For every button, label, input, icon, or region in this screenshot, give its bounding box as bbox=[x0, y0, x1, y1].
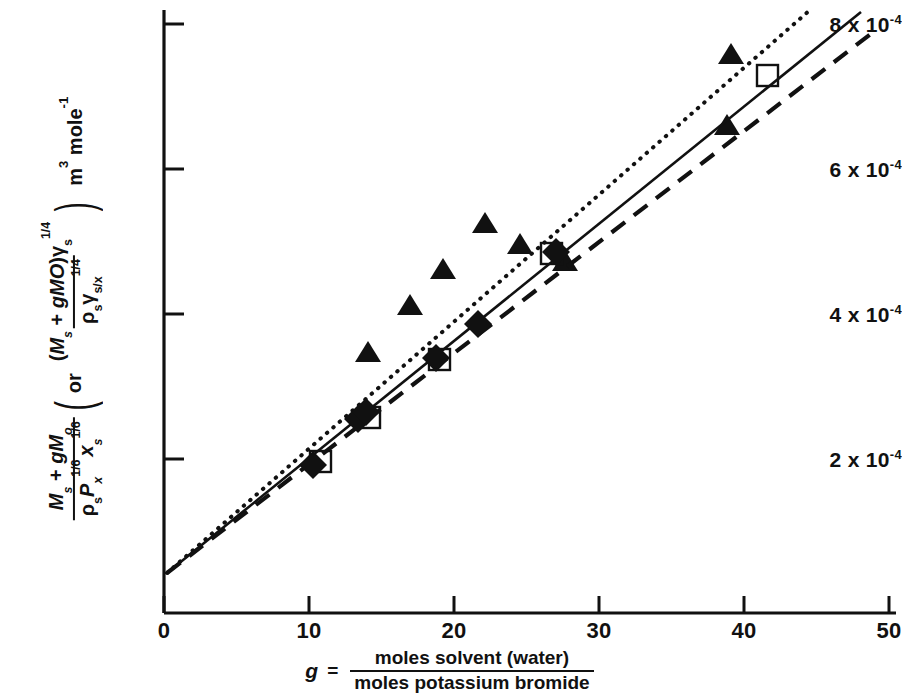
x-tick-label-30: 30 bbox=[586, 618, 611, 644]
triangle-markers bbox=[355, 43, 744, 362]
chart-plot bbox=[0, 0, 902, 699]
x-label-fraction: moles solvent (water) moles potassium br… bbox=[350, 648, 593, 693]
y-axis-units: m3 mole-1 bbox=[62, 97, 87, 186]
x-tick-label-10: 10 bbox=[296, 618, 321, 644]
y-axis-label-wrapper: Ms + gMo ρsPx1/6xs1/6 ( or (Ms + gMO)γs1… bbox=[14, 0, 134, 620]
x-label-symbol: g bbox=[305, 659, 318, 683]
fraction-2-denominator: ρsγs/x1/4 bbox=[73, 255, 102, 328]
or-word: or bbox=[63, 373, 86, 393]
y-tick-label-2: 2 x 10-4 bbox=[750, 447, 902, 472]
x-tick-label-40: 40 bbox=[731, 618, 756, 644]
series-dotted-upper bbox=[167, 10, 810, 573]
figure-container: 8 x 10-4 6 x 10-4 4 x 10-4 2 x 10-4 0 10… bbox=[0, 0, 902, 699]
series-solid-middle bbox=[167, 12, 861, 573]
fraction-1-denominator: ρsPx1/6xs1/6 bbox=[73, 417, 102, 520]
y-axis-label: Ms + gMo ρsPx1/6xs1/6 ( or (Ms + gMO)γs1… bbox=[46, 97, 102, 524]
x-tick-label-50: 50 bbox=[876, 618, 901, 644]
x-tick-label-0: 0 bbox=[158, 618, 171, 644]
dotted-trend-line bbox=[167, 10, 810, 573]
y-tick-label-8: 8 x 10-4 bbox=[750, 12, 902, 37]
y-label-fraction-2: (Ms + gMO)γs1/4 ρsγs/x1/4 bbox=[46, 218, 102, 365]
x-label-equals: = bbox=[327, 660, 338, 682]
open-paren: ( bbox=[61, 401, 89, 410]
x-tick-label-20: 20 bbox=[441, 618, 466, 644]
x-label-numerator: moles solvent (water) bbox=[371, 648, 573, 670]
y-tick-label-4: 4 x 10-4 bbox=[750, 302, 902, 327]
x-label-denominator: moles potassium bromide bbox=[350, 670, 593, 694]
fraction-2-numerator: (Ms + gMO)γs1/4 bbox=[46, 218, 73, 365]
y-axis-ticks bbox=[164, 24, 184, 459]
x-axis-label: g = moles solvent (water) moles potassiu… bbox=[0, 648, 902, 693]
solid-trend-line bbox=[167, 12, 861, 573]
y-label-fraction-1: Ms + gMo ρsPx1/6xs1/6 bbox=[46, 417, 101, 520]
close-paren: ) bbox=[61, 202, 89, 211]
x-axis-ticks bbox=[164, 596, 889, 613]
y-tick-label-6: 6 x 10-4 bbox=[750, 157, 902, 182]
